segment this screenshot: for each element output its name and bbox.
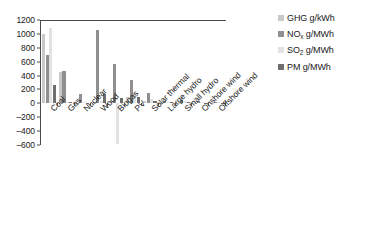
x-axis-tick-mark bbox=[141, 103, 142, 106]
y-axis-tick: 0 bbox=[30, 99, 40, 108]
y-axis-tick: 600 bbox=[21, 57, 40, 66]
chart-legend: GHG g/kWhNOx g/MWhSO2 g/MWhPM g/MWh bbox=[278, 13, 378, 77]
legend-item[interactable]: SO2 g/MWh bbox=[278, 45, 378, 56]
x-axis-tick-mark bbox=[74, 103, 75, 106]
x-axis-tick-mark bbox=[225, 103, 226, 106]
x-axis-tick-mark bbox=[57, 103, 58, 106]
x-axis-tick-mark bbox=[90, 103, 91, 106]
x-axis-tick-mark bbox=[175, 103, 176, 106]
y-axis-tick: –200 bbox=[16, 113, 40, 122]
x-axis-tick-mark bbox=[40, 103, 41, 106]
y-axis-tick-label: 400 bbox=[21, 71, 37, 80]
y-axis-tick-label: 1000 bbox=[16, 29, 37, 38]
x-axis-tick-mark bbox=[191, 103, 192, 106]
legend-label: GHG g/kWh bbox=[287, 13, 335, 23]
legend-swatch bbox=[278, 15, 284, 21]
x-axis-tick-mark bbox=[158, 103, 159, 106]
legend-item[interactable]: GHG g/kWh bbox=[278, 13, 378, 23]
y-axis-tick: 1200 bbox=[16, 16, 40, 25]
x-axis-category-label: Coal bbox=[49, 95, 67, 113]
y-axis-tick: –400 bbox=[16, 127, 40, 136]
x-axis-tick-mark bbox=[208, 103, 209, 106]
legend-swatch bbox=[278, 64, 284, 70]
y-axis-tick: 800 bbox=[21, 43, 40, 52]
legend-label: NOx g/MWh bbox=[287, 29, 334, 40]
legend-item[interactable]: PM g/MWh bbox=[278, 62, 378, 72]
y-axis-tick-label: 1200 bbox=[16, 16, 37, 25]
legend-item[interactable]: NOx g/MWh bbox=[278, 29, 378, 40]
legend-swatch bbox=[278, 31, 284, 37]
y-axis-tick: –600 bbox=[16, 141, 40, 150]
y-axis-tick-label: 200 bbox=[21, 85, 37, 94]
y-axis-tick-label: 800 bbox=[21, 43, 37, 52]
legend-swatch bbox=[278, 47, 284, 53]
y-axis-tick: 1000 bbox=[16, 29, 40, 38]
x-axis-category-label: PV bbox=[133, 99, 147, 113]
legend-label: PM g/MWh bbox=[287, 62, 331, 72]
y-axis-tick-label: –400 bbox=[16, 127, 37, 136]
bar-chart: 120010008006004002000–200–400–600 CoalGa… bbox=[0, 0, 380, 239]
y-axis-tick-label: –600 bbox=[16, 141, 37, 150]
y-axis-tick: 400 bbox=[21, 71, 40, 80]
x-axis-tick-mark bbox=[124, 103, 125, 106]
y-axis-tick: 200 bbox=[21, 85, 40, 94]
y-axis-tick-label: 0 bbox=[30, 99, 37, 108]
y-axis-tick-labels: 120010008006004002000–200–400–600 bbox=[0, 20, 40, 145]
y-axis-tick-label: –200 bbox=[16, 113, 37, 122]
legend-label: SO2 g/MWh bbox=[287, 45, 334, 56]
x-axis-tick-mark bbox=[107, 103, 108, 106]
y-axis-tick-label: 600 bbox=[21, 57, 37, 66]
x-axis-category-labels: CoalGasNuclearWoodBiogasPVSolar thermalL… bbox=[40, 0, 226, 239]
